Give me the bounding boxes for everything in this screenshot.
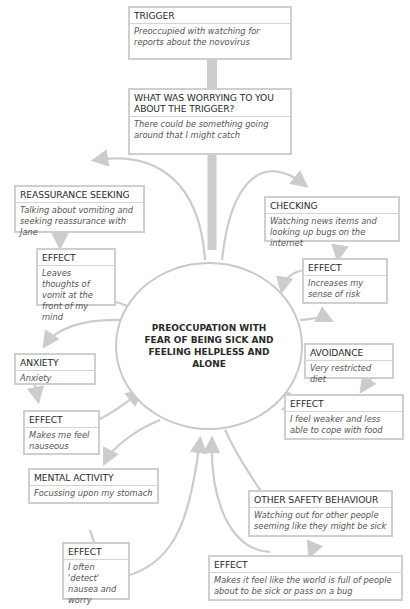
checking-box: CHECKING Watching news items and looking…	[264, 196, 400, 242]
trigger-box: TRIGGER Preoccupied with watching for re…	[128, 6, 292, 60]
checking-effect-box: EFFECT Increases my sense of risk	[302, 258, 388, 304]
anxiety-text: Anxiety	[16, 371, 94, 387]
reassurance-effect-text: Leaves thoughts of vomit at the front of…	[38, 266, 114, 326]
reassurance-effect-title: EFFECT	[38, 250, 114, 266]
avoidance-box: AVOIDANCE Very restricted diet	[304, 343, 394, 379]
worry-box: WHAT WAS WORRYING TO YOU ABOUT THE TRIGG…	[128, 88, 292, 155]
anxiety-title: ANXIETY	[16, 355, 94, 371]
avoidance-effect-title: EFFECT	[286, 396, 402, 412]
trigger-title: TRIGGER	[130, 8, 290, 24]
mental-title: MENTAL ACTIVITY	[30, 470, 157, 486]
reassurance-title: REASSURANCE SEEKING	[16, 187, 143, 203]
safety-title: OTHER SAFETY BEHAVIOUR	[250, 492, 391, 508]
mental-effect-title: EFFECT	[64, 544, 128, 560]
anxiety-effect-box: EFFECT Makes me feel nauseous	[23, 410, 100, 455]
avoidance-effect-box: EFFECT I feel weaker and less able to co…	[284, 394, 404, 440]
mental-text: Focussing upon my stomach	[30, 486, 157, 502]
reassurance-seeking-box: REASSURANCE SEEKING Talking about vomiti…	[14, 185, 145, 233]
central-preoccupation-circle: PREOCCUPATION WITH FEAR OF BEING SICK AN…	[115, 262, 303, 430]
avoidance-effect-text: I feel weaker and less able to cope with…	[286, 412, 402, 439]
mental-effect-text: I often 'detect' nausea and worry	[64, 560, 128, 609]
checking-text: Watching news items and looking up bugs …	[266, 214, 398, 252]
checking-effect-title: EFFECT	[304, 260, 386, 276]
mental-effect-box: EFFECT I often 'detect' nausea and worry	[62, 542, 130, 600]
checking-effect-text: Increases my sense of risk	[304, 276, 386, 303]
checking-title: CHECKING	[266, 198, 398, 214]
worry-text: There could be something going around th…	[130, 117, 290, 144]
safety-effect-box: EFFECT Makes it feel like the world is f…	[208, 555, 403, 601]
avoidance-title: AVOIDANCE	[306, 345, 392, 361]
worry-title: WHAT WAS WORRYING TO YOU ABOUT THE TRIGG…	[130, 90, 290, 117]
anxiety-effect-title: EFFECT	[25, 412, 98, 428]
reassurance-effect-box: EFFECT Leaves thoughts of vomit at the f…	[36, 248, 116, 306]
avoidance-text: Very restricted diet	[306, 361, 392, 388]
trigger-text: Preoccupied with watching for reports ab…	[130, 24, 290, 51]
reassurance-text: Talking about vomiting and seeking reass…	[16, 203, 143, 241]
central-label: PREOCCUPATION WITH FEAR OF BEING SICK AN…	[144, 322, 274, 370]
other-safety-behaviour-box: OTHER SAFETY BEHAVIOUR Watching out for …	[248, 490, 393, 537]
safety-text: Watching out for other people seeming li…	[250, 508, 391, 535]
safety-effect-title: EFFECT	[210, 557, 401, 573]
safety-effect-text: Makes it feel like the world is full of …	[210, 573, 401, 600]
mental-activity-box: MENTAL ACTIVITY Focussing upon my stomac…	[28, 468, 159, 504]
anxiety-box: ANXIETY Anxiety	[14, 353, 96, 385]
anxiety-effect-text: Makes me feel nauseous	[25, 428, 98, 455]
